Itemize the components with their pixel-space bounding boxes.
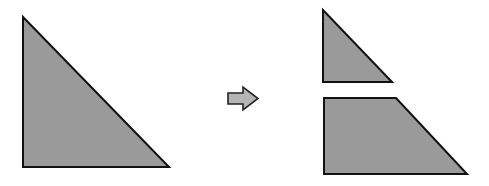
original-right-triangle (23, 17, 169, 167)
small-triangle-piece (323, 10, 392, 82)
diagram-svg (0, 0, 489, 186)
right-arrow-icon (228, 87, 258, 110)
diagram-canvas: Right triangle cut into a smaller triang… (0, 0, 489, 186)
trapezoid-piece (324, 98, 467, 174)
